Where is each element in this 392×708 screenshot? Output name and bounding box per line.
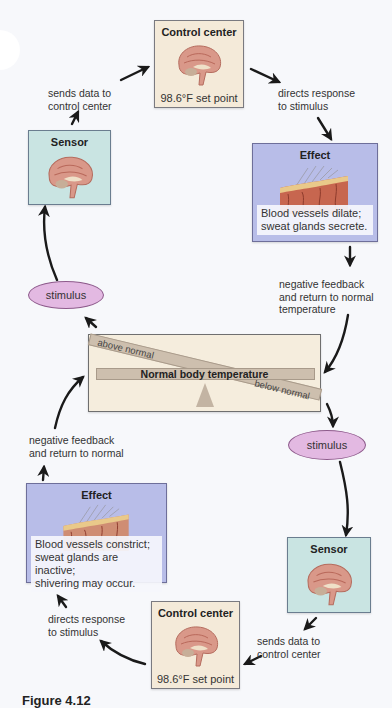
set-point-label: 98.6°F set point [152, 673, 239, 685]
label-line: negative feedback [279, 278, 374, 291]
effect-note: Blood vessels dilate; sweat glands secre… [257, 205, 373, 235]
sensor-title: Sensor [288, 543, 370, 555]
brain-icon [170, 624, 222, 668]
label-line: control center [257, 648, 321, 661]
arrow-sensor-to-label [72, 112, 78, 124]
stimulus-ellipse-bottom: stimulus [288, 430, 366, 460]
brain-icon [173, 43, 225, 87]
label-line: and return to normal [279, 291, 374, 304]
label-line: directs response [278, 87, 355, 100]
label-line: temperature [279, 303, 374, 316]
arrow-control-to-label-bottom [101, 641, 145, 664]
label-line: negative feedback [29, 434, 124, 447]
brain-icon [43, 153, 97, 201]
stimulus-ellipse-top: stimulus [28, 281, 104, 309]
effect-box-bottom: Effect Blood vessels constrict; sweat gl… [26, 483, 167, 583]
label-line: to stimulus [278, 100, 355, 113]
label-sends-data-bottom: sends data to control center [257, 635, 321, 660]
arrow-label-to-effect [318, 118, 331, 139]
effect-title: Effect [253, 149, 377, 161]
arrow-control-to-label [251, 69, 279, 82]
fulcrum-icon [196, 383, 214, 407]
above-normal-label: above normal [97, 336, 156, 360]
sensor-title: Sensor [29, 136, 110, 148]
effect-note: Blood vessels constrict; sweat glands ar… [31, 536, 162, 592]
note-line: Blood vessels dilate; [261, 207, 369, 220]
arrow-feedback-to-seesaw-bottom [55, 377, 83, 428]
label-line: sends data to [48, 87, 112, 100]
effect-box-top: Effect Blood vessels dilate; sweat gland… [252, 143, 378, 242]
label-line: directs response [48, 613, 125, 626]
arrow-feedback-to-seesaw [325, 315, 348, 372]
brain-icon [302, 560, 356, 608]
arrow-effect-to-feedback-bottom [43, 467, 44, 480]
effect-title: Effect [27, 489, 166, 501]
normal-temperature-seesaw: above normal below normal Normal body te… [88, 334, 321, 412]
label-directs-response-top: directs response to stimulus [278, 87, 355, 112]
control-center-box-bottom: Control center 98.6°F set point [151, 601, 240, 689]
set-point-label: 98.6°F set point [155, 92, 243, 104]
sensor-box-bottom: Sensor [287, 537, 371, 613]
arrow-stimulus-to-sensor-bottom [340, 462, 348, 535]
arrow-label-to-control [121, 67, 148, 80]
arrow-label-to-effect-bottom [58, 596, 66, 607]
arrow-seesaw-to-stimulus [86, 318, 96, 327]
figure-caption: Figure 4.12 [22, 693, 91, 708]
label-negative-feedback-bottom: negative feedback and return to normal [29, 434, 124, 459]
normal-body-temperature-label: Normal body temperature [89, 368, 320, 380]
label-line: control center [48, 100, 112, 113]
note-line: sweat glands secrete. [261, 220, 369, 233]
control-center-title: Control center [155, 26, 243, 38]
label-sends-data-top: sends data to control center [48, 87, 112, 112]
control-center-box-top: Control center 98.6°F set point [154, 20, 244, 108]
label-line: sends data to [257, 635, 321, 648]
control-center-title: Control center [152, 607, 239, 619]
note-line: sweat glands are inactive; [35, 551, 158, 577]
sensor-box-top: Sensor [28, 130, 111, 205]
label-line: and return to normal [29, 447, 124, 460]
label-negative-feedback-top: negative feedback and return to normal t… [279, 278, 374, 316]
label-directs-response-bottom: directs response to stimulus [48, 613, 125, 638]
note-line: shivering may occur. [35, 577, 158, 590]
arrow-seesaw-to-stimulus-bottom [327, 404, 333, 426]
arrow-sensor-to-label-bottom [305, 618, 316, 629]
arrow-stimulus-to-sensor [44, 207, 57, 280]
note-line: Blood vessels constrict; [35, 538, 158, 551]
label-line: to stimulus [48, 626, 125, 639]
